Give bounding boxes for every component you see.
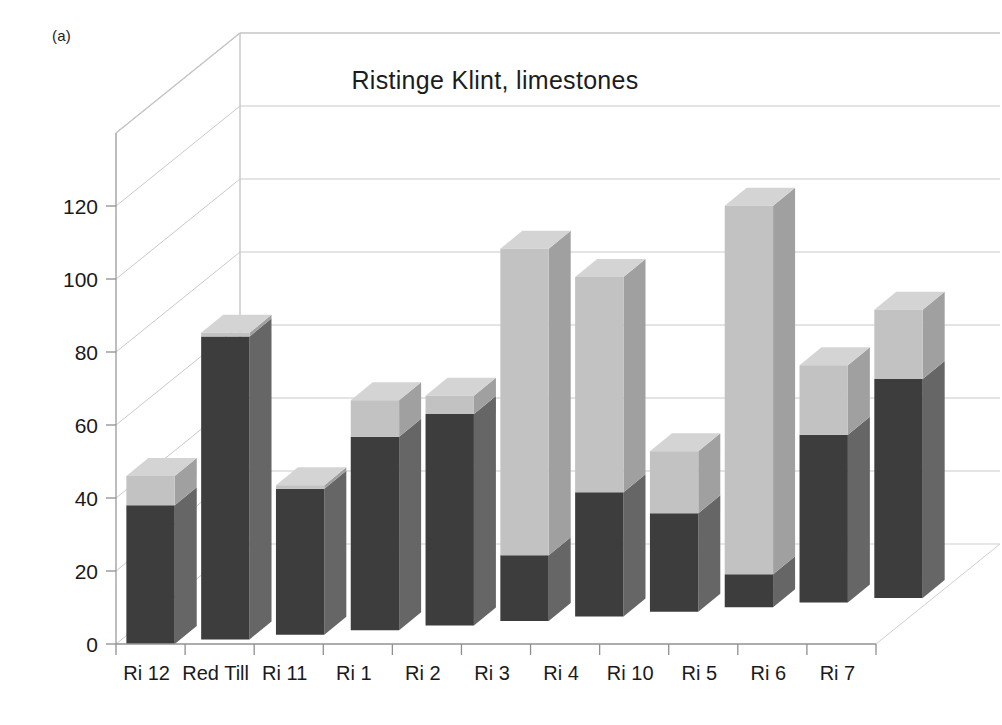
bar-group xyxy=(351,382,421,630)
bar-side-face-upper xyxy=(549,231,571,556)
bar-group xyxy=(126,458,196,644)
x-tick-label: Ri 11 xyxy=(262,662,307,684)
chart-plot-area: 020406080100120Ri 12Red TillRi 11Ri 1Ri … xyxy=(0,0,1002,725)
gridline-depth xyxy=(116,179,240,279)
gridline-depth xyxy=(116,106,240,206)
chart-page: (a) Ristinge Klint, limestones 020406080… xyxy=(0,0,1002,725)
bar-front-face-lower xyxy=(426,414,474,626)
bar-front-face-upper xyxy=(500,249,548,556)
bar-front-face-upper xyxy=(426,396,474,414)
bar-group xyxy=(276,467,346,635)
bar-side-face-lower xyxy=(175,487,197,644)
bar-front-face-lower xyxy=(800,435,848,603)
y-tick-label: 100 xyxy=(63,268,98,291)
bar-group xyxy=(725,188,795,608)
bar-front-face-lower xyxy=(725,574,773,607)
bar-side-face-lower xyxy=(848,417,870,603)
x-tick-label: Ri 2 xyxy=(405,662,441,684)
bar-front-face-upper xyxy=(126,476,174,505)
bar-front-face-upper xyxy=(276,485,324,489)
bar-front-face-lower xyxy=(351,437,399,630)
x-tick-label: Ri 4 xyxy=(543,662,579,684)
bar-front-face-upper xyxy=(575,277,623,492)
bar-group xyxy=(500,231,570,621)
bar-front-face-lower xyxy=(201,336,249,639)
bar-side-face-lower xyxy=(474,396,496,626)
bar-front-face-lower xyxy=(276,489,324,635)
bar-side-face-lower xyxy=(399,419,421,630)
bar-front-face-upper xyxy=(201,333,249,337)
bar-group xyxy=(426,378,496,626)
bar-side-face-lower xyxy=(923,361,945,598)
bar-front-face-lower xyxy=(500,555,548,621)
y-tick-label: 80 xyxy=(75,341,98,364)
bar-group xyxy=(874,292,944,598)
y-tick-label: 0 xyxy=(86,633,98,656)
bar-front-face-upper xyxy=(800,365,848,434)
x-tick-label: Ri 1 xyxy=(336,662,372,684)
bar-group xyxy=(201,315,271,640)
x-tick-label: Ri 5 xyxy=(681,662,717,684)
bar-side-face-upper xyxy=(773,188,795,575)
x-tick-label: Red Till xyxy=(182,662,249,684)
gridline-depth xyxy=(116,33,240,133)
bar-front-face-lower xyxy=(126,505,174,644)
bar-front-face-lower xyxy=(874,379,922,598)
bar-front-face-upper xyxy=(725,206,773,575)
y-tick-label: 60 xyxy=(75,414,98,437)
y-tick-label: 40 xyxy=(75,487,98,510)
x-tick-label: Ri 12 xyxy=(123,662,170,684)
x-tick-label: Ri 10 xyxy=(607,662,654,684)
bar-side-face-lower xyxy=(250,318,272,639)
bar-side-face-upper xyxy=(624,259,646,492)
bar-front-face-lower xyxy=(650,513,698,612)
bar-side-face-lower xyxy=(324,471,346,635)
y-tick-label: 120 xyxy=(63,195,98,218)
bar-front-face-lower xyxy=(575,492,623,616)
x-tick-label: Ri 6 xyxy=(751,662,787,684)
x-tick-label: Ri 3 xyxy=(474,662,510,684)
bar-side-face-lower xyxy=(698,495,720,612)
bar-group xyxy=(575,259,645,616)
bar-group xyxy=(650,433,720,612)
x-tick-label: Ri 7 xyxy=(820,662,856,684)
bar-front-face-upper xyxy=(874,310,922,379)
bar-front-face-upper xyxy=(650,451,698,513)
bar-side-face-lower xyxy=(624,474,646,616)
bars-layer xyxy=(126,188,944,644)
bar-group xyxy=(800,347,870,602)
y-tick-label: 20 xyxy=(75,560,98,583)
bar-front-face-upper xyxy=(351,400,399,437)
